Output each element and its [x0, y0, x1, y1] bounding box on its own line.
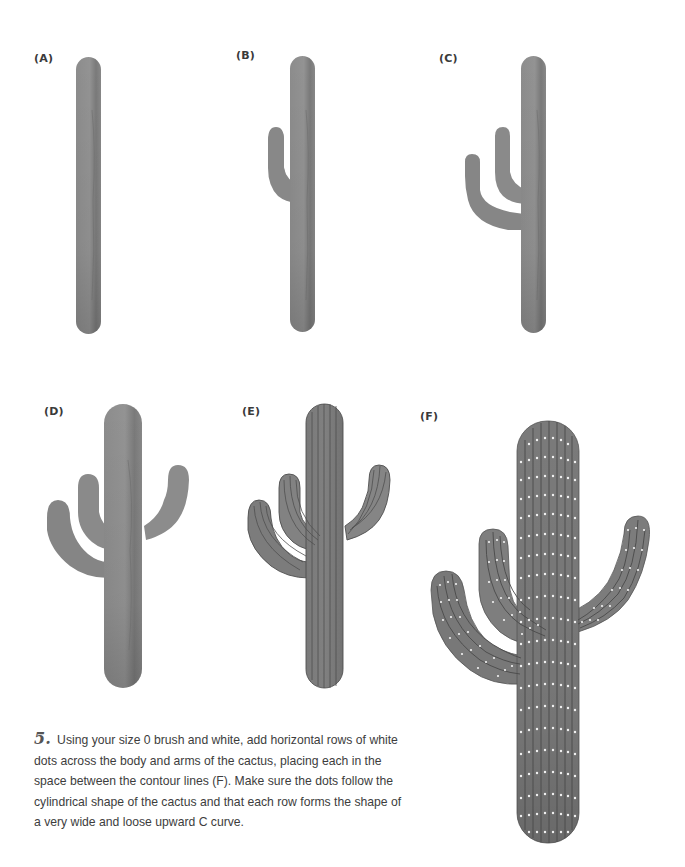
cactus-c [465, 56, 546, 333]
step-text: Using your size 0 brush and white, add h… [34, 733, 401, 829]
step-instructions: 5. Using your size 0 brush and white, ad… [34, 729, 406, 833]
cactus-f [431, 421, 650, 843]
cactus-a [76, 57, 101, 334]
cactus-d [47, 404, 189, 688]
step-number: 5. [34, 729, 51, 748]
cactus-e [248, 404, 390, 688]
cactus-b [268, 56, 315, 332]
